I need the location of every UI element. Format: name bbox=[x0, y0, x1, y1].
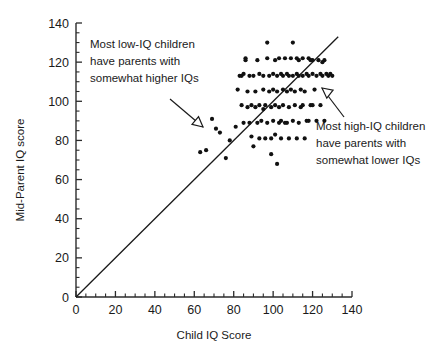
data-point bbox=[269, 105, 273, 109]
data-point bbox=[261, 87, 265, 91]
data-point bbox=[309, 58, 313, 62]
data-point bbox=[275, 89, 279, 93]
data-point bbox=[283, 56, 287, 60]
x-tick-label-100: 100 bbox=[263, 303, 284, 317]
data-point bbox=[318, 103, 322, 107]
data-point bbox=[271, 72, 275, 76]
data-point bbox=[301, 74, 305, 78]
data-point bbox=[198, 150, 202, 154]
data-point bbox=[314, 74, 318, 78]
data-point bbox=[287, 105, 291, 109]
data-point bbox=[249, 103, 253, 107]
data-point bbox=[267, 74, 271, 78]
data-point bbox=[291, 74, 295, 78]
high-iq-annotation: Most high-IQ childrenhave parents withso… bbox=[316, 84, 425, 166]
data-point bbox=[243, 58, 247, 62]
high-iq-annotation-line-1: Most high-IQ children bbox=[316, 120, 425, 132]
data-point bbox=[263, 136, 267, 140]
data-point bbox=[204, 148, 208, 152]
low-iq-annotation: Most low-IQ childrenhave parents withsom… bbox=[90, 38, 206, 131]
data-point bbox=[236, 87, 240, 91]
high-iq-annotation-line-2: have parents with bbox=[316, 137, 406, 149]
data-point bbox=[247, 121, 251, 125]
data-points bbox=[198, 40, 334, 166]
x-tick-label-60: 60 bbox=[187, 303, 201, 317]
data-point bbox=[267, 89, 271, 93]
data-point bbox=[277, 56, 281, 60]
data-point bbox=[247, 74, 251, 78]
data-point bbox=[277, 105, 281, 109]
data-point bbox=[289, 56, 293, 60]
y-tick-label-100: 100 bbox=[48, 95, 69, 109]
scatter-plot-figure: 020406080100120140020406080100120140 Mos… bbox=[0, 0, 446, 359]
data-point bbox=[293, 89, 297, 93]
x-tick-label-0: 0 bbox=[73, 303, 80, 317]
data-point bbox=[279, 136, 283, 140]
x-tick-label-40: 40 bbox=[148, 303, 162, 317]
data-point bbox=[301, 103, 305, 107]
data-point bbox=[257, 136, 261, 140]
x-tick-label-140: 140 bbox=[342, 303, 363, 317]
data-point bbox=[303, 89, 307, 93]
low-iq-annotation-line-2: have parents with bbox=[90, 55, 180, 67]
data-point bbox=[261, 74, 265, 78]
data-point bbox=[224, 156, 228, 160]
high-iq-annotation-arrow-head bbox=[319, 84, 333, 98]
data-point bbox=[320, 74, 324, 78]
y-tick-label-0: 0 bbox=[62, 291, 69, 305]
y-tick-label-40: 40 bbox=[55, 212, 69, 226]
x-tick-label-120: 120 bbox=[302, 303, 323, 317]
y-tick-label-60: 60 bbox=[55, 173, 69, 187]
data-point bbox=[297, 121, 301, 125]
data-point bbox=[273, 58, 277, 62]
x-tick-label-20: 20 bbox=[108, 303, 122, 317]
data-point bbox=[307, 74, 311, 78]
data-point bbox=[273, 103, 277, 107]
y-tick-label-20: 20 bbox=[55, 251, 69, 265]
data-point bbox=[253, 89, 257, 93]
data-point bbox=[214, 127, 218, 131]
data-point bbox=[249, 134, 253, 138]
data-point bbox=[299, 87, 303, 91]
plot-canvas: 020406080100120140020406080100120140 Mos… bbox=[0, 0, 446, 359]
data-point bbox=[297, 74, 301, 78]
data-point bbox=[271, 119, 275, 123]
data-point bbox=[218, 131, 222, 135]
data-point bbox=[269, 152, 273, 156]
data-point bbox=[287, 136, 291, 140]
data-point bbox=[310, 103, 314, 107]
y-tick-label-140: 140 bbox=[48, 17, 69, 31]
data-point bbox=[257, 103, 261, 107]
data-point bbox=[261, 107, 265, 111]
data-point bbox=[291, 40, 295, 44]
data-point bbox=[316, 58, 320, 62]
data-point bbox=[245, 89, 249, 93]
data-point bbox=[240, 103, 244, 107]
data-point bbox=[275, 74, 279, 78]
data-point bbox=[310, 72, 314, 76]
data-point bbox=[255, 58, 259, 62]
data-point bbox=[253, 105, 257, 109]
data-point bbox=[281, 74, 285, 78]
data-point bbox=[320, 60, 324, 64]
data-point bbox=[285, 89, 289, 93]
data-point bbox=[275, 162, 279, 166]
data-point bbox=[271, 87, 275, 91]
data-point bbox=[281, 87, 285, 91]
data-point bbox=[255, 121, 259, 125]
data-point bbox=[263, 103, 267, 107]
data-point bbox=[251, 144, 255, 148]
data-point bbox=[269, 136, 273, 140]
chart-annotations: Most low-IQ childrenhave parents withsom… bbox=[90, 38, 425, 166]
low-iq-annotation-line-3: somewhat higher IQs bbox=[90, 72, 199, 84]
data-point bbox=[228, 138, 232, 142]
y-axis-title: Mid-Parent IQ score bbox=[14, 119, 26, 222]
data-point bbox=[287, 74, 291, 78]
data-point bbox=[265, 56, 269, 60]
data-point bbox=[285, 121, 289, 125]
data-point bbox=[241, 121, 245, 125]
data-point bbox=[245, 105, 249, 109]
data-point bbox=[297, 58, 301, 62]
data-point bbox=[259, 119, 263, 123]
data-point bbox=[330, 74, 334, 78]
